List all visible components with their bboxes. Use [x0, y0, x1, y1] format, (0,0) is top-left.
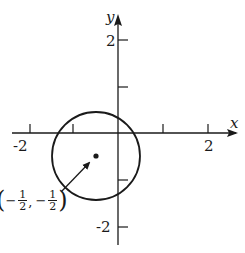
fraction-y: 1 2: [48, 189, 57, 212]
y-tick-label-neg2: -2: [96, 220, 111, 235]
minus-sign: −: [5, 194, 16, 207]
x-axis-label: x: [230, 116, 238, 131]
minus-sign: −: [35, 194, 46, 207]
fraction-x: 1 2: [18, 189, 27, 212]
center-point-label: ( − 1 2 , − 1 2 ): [0, 188, 68, 212]
x-tick-label-neg2: -2: [13, 139, 28, 154]
x-tick-label-2: 2: [204, 139, 214, 154]
y-tick-label-2: 2: [106, 34, 116, 49]
close-paren: ): [58, 188, 67, 212]
coordinate-diagram: y x -2 2 2 -2 ( − 1 2 , − 1 2 ): [0, 0, 245, 253]
center-point: [93, 153, 98, 158]
y-axis-label: y: [106, 10, 114, 25]
comma: ,: [28, 195, 32, 208]
diagram-canvas: [0, 0, 245, 253]
